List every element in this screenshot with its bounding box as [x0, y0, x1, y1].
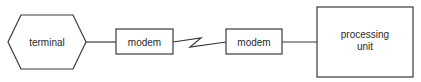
terminal-label: terminal [29, 37, 65, 48]
diagram-canvas: terminal modem modem processing unit [0, 0, 421, 82]
modem-label: modem [128, 37, 161, 48]
processing-unit-label-line1: processing [341, 29, 389, 40]
processing-unit-label-line2: unit [357, 41, 373, 52]
modem-node-2: modem [226, 29, 282, 54]
modem-node-1: modem [116, 29, 173, 54]
terminal-node: terminal [8, 15, 86, 69]
processing-unit-node: processing unit [317, 7, 413, 77]
zigzag-link-icon [173, 38, 226, 47]
modem-label: modem [237, 37, 270, 48]
